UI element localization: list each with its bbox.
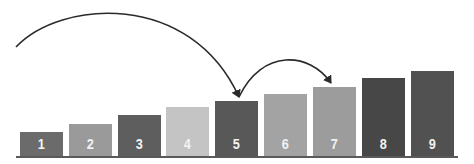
- bar-label: 9: [429, 135, 436, 156]
- bar-label: 3: [136, 135, 143, 156]
- bar-4: 4: [166, 107, 209, 156]
- bar-label: 8: [380, 135, 387, 156]
- bar-label: 2: [87, 135, 94, 156]
- bar-3: 3: [118, 115, 161, 156]
- long-arc-arrow-icon: [16, 13, 239, 97]
- bar-7: 7: [313, 87, 356, 156]
- bar-2: 2: [69, 124, 112, 156]
- bar-label: 5: [233, 135, 240, 156]
- bar-8: 8: [362, 78, 405, 156]
- bar-label: 7: [331, 135, 338, 156]
- bar-6: 6: [264, 94, 307, 156]
- bar-jump-diagram: 123456789: [0, 0, 474, 164]
- bar-1: 1: [20, 132, 63, 156]
- bar-9: 9: [411, 71, 454, 156]
- bar-5: 5: [215, 101, 258, 156]
- bar-label: 6: [282, 135, 289, 156]
- baseline: [16, 156, 458, 158]
- bar-label: 4: [184, 135, 191, 156]
- bar-label: 1: [38, 135, 45, 156]
